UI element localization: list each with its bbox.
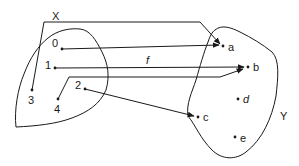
arrow-3-to-a (32, 22, 220, 90)
domain-point-1 (54, 67, 57, 70)
domain-point-4 (57, 98, 60, 101)
codomain-label-a: a (228, 41, 235, 53)
domain-point-2 (84, 88, 87, 91)
set-x-label: X (52, 10, 60, 22)
codomain-label-c: c (203, 111, 209, 123)
codomain-point-e (234, 136, 237, 139)
codomain-point-c (197, 116, 200, 119)
domain-label-1: 1 (45, 59, 51, 71)
codomain-point-a (222, 45, 225, 48)
set-x-boundary (15, 29, 108, 127)
domain-point-0 (61, 48, 64, 51)
domain-label-4: 4 (54, 103, 60, 115)
domain-point-3 (31, 89, 34, 92)
domain-label-2: 2 (75, 79, 81, 91)
codomain-point-d (237, 98, 240, 101)
codomain-point-b (247, 66, 250, 69)
function-label: f (146, 54, 150, 66)
arrow-1-to-b (55, 67, 244, 68)
codomain-label-b: b (253, 61, 259, 73)
arrow-0-to-a (62, 45, 219, 49)
codomain-label-e: e (240, 132, 246, 144)
arrow-2-to-c (85, 89, 194, 116)
arrow-4-to-b (58, 69, 243, 99)
codomain-label-d: d (243, 93, 250, 105)
domain-label-3: 3 (28, 94, 34, 106)
set-y-label: Y (280, 110, 288, 122)
function-diagram: X Y f 0 1 2 3 4 a b c d e (0, 0, 299, 166)
domain-label-0: 0 (52, 37, 58, 49)
